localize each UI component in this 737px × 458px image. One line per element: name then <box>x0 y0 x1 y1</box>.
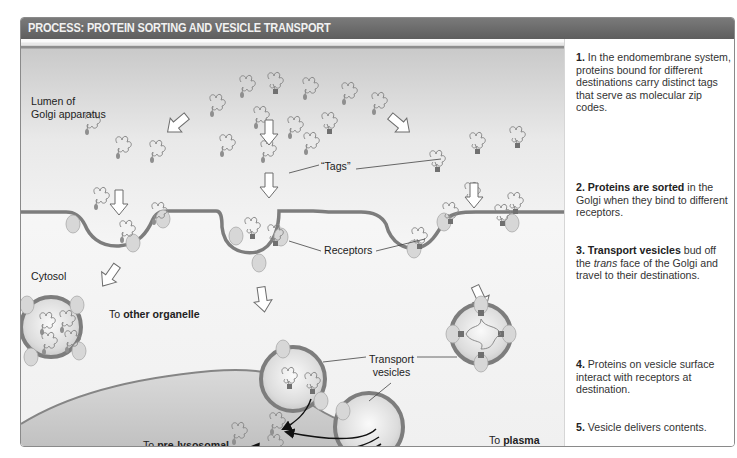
step-2: 2. Proteins are sorted in the Golgi when… <box>576 181 731 219</box>
step-number: 4. <box>576 358 585 370</box>
label-other-bold: other organelle <box>123 308 200 320</box>
step-text: In the endomembrane system, proteins bou… <box>576 51 731 113</box>
label-transport-line2: vesicles <box>369 366 414 379</box>
steps-sidebar: 1. In the endomembrane system, proteins … <box>564 39 735 446</box>
step-number: 2. <box>576 181 585 193</box>
step-5: 5. Vesicle delivers contents. <box>576 421 731 434</box>
label-lumen-line1: Lumen of <box>31 95 106 108</box>
step-bold: Transport vesicles <box>585 244 681 256</box>
label-lumen-line2: Golgi apparatus <box>31 108 106 121</box>
label-transport-line1: Transport <box>369 353 414 366</box>
step-italic: trans <box>594 257 618 269</box>
figure-title: PROCESS: PROTEIN SORTING AND VESICLE TRA… <box>28 21 331 35</box>
figure-panel: PROCESS: PROTEIN SORTING AND VESICLE TRA… <box>20 17 735 447</box>
label-cytosol: Cytosol <box>31 270 66 283</box>
label-tags: “Tags” <box>321 160 350 173</box>
step-3: 3. Transport vesicles bud off the trans … <box>576 244 731 282</box>
step-number: 5. <box>576 421 585 433</box>
step-text: Vesicle delivers contents. <box>585 421 707 433</box>
step-4: 4. Proteins on vesicle surface interact … <box>576 358 731 396</box>
label-plasma-bold2: membrane <box>489 446 543 447</box>
label-other-organelle: To other organelle <box>109 308 200 321</box>
label-lyso-bold1: pre-lysosomal <box>157 439 229 447</box>
step-text: Proteins on vesicle surface interact wit… <box>576 358 714 395</box>
label-lumen: Lumen of Golgi apparatus <box>31 95 106 120</box>
label-plasma-bold1: plasma <box>503 434 540 446</box>
label-plasma-membrane: To plasma membrane for secretion <box>489 434 547 447</box>
step-1: 1. In the endomembrane system, proteins … <box>576 51 731 114</box>
label-plasma-prefix: To <box>489 434 503 446</box>
label-other-prefix: To <box>109 308 123 320</box>
label-pre-lysosomal: To pre-lysosomal compartment <box>143 439 229 447</box>
label-lyso-prefix: To <box>143 439 157 447</box>
label-receptors: Receptors <box>324 244 372 257</box>
label-transport-vesicles: Transport vesicles <box>369 353 414 378</box>
step-number: 1. <box>576 51 585 63</box>
step-bold: Proteins are sorted <box>585 181 685 193</box>
sorting-diagram: Lumen of Golgi apparatus Cytosol “Tags” … <box>21 39 564 446</box>
figure-header: PROCESS: PROTEIN SORTING AND VESICLE TRA… <box>21 18 734 39</box>
step-number: 3. <box>576 244 585 256</box>
